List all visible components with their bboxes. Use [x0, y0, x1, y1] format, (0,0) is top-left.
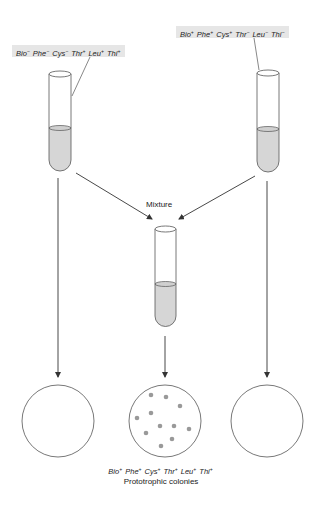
gene-bio: Bio+: [108, 467, 123, 476]
prototroph-genotype-label: Bio+ Phe+ Cys+ Thr+ Leu+ Thi+: [0, 466, 322, 476]
mixture-test-tube: [155, 226, 176, 327]
left-test-tube: [49, 71, 71, 171]
arrow-right-to-mixture: [179, 176, 255, 219]
gene-thr: Thr+: [164, 467, 179, 476]
gene-cys: Cys+: [145, 467, 162, 476]
gene-thi: Thi+: [199, 467, 213, 476]
right-plate: [231, 385, 303, 457]
left-label-leader: [72, 57, 90, 96]
diagram-canvas: [0, 0, 322, 509]
prototrophic-colonies-caption: Prototrophic colonies: [0, 477, 322, 486]
gene-phe: Phe+: [125, 467, 142, 476]
left-plate: [22, 385, 94, 457]
gene-leu: Leu+: [181, 467, 197, 476]
right-test-tube: [257, 70, 279, 172]
right-label-leader: [254, 38, 259, 70]
arrow-left-to-mixture: [76, 173, 152, 219]
mixture-label: Mixture: [146, 200, 172, 209]
